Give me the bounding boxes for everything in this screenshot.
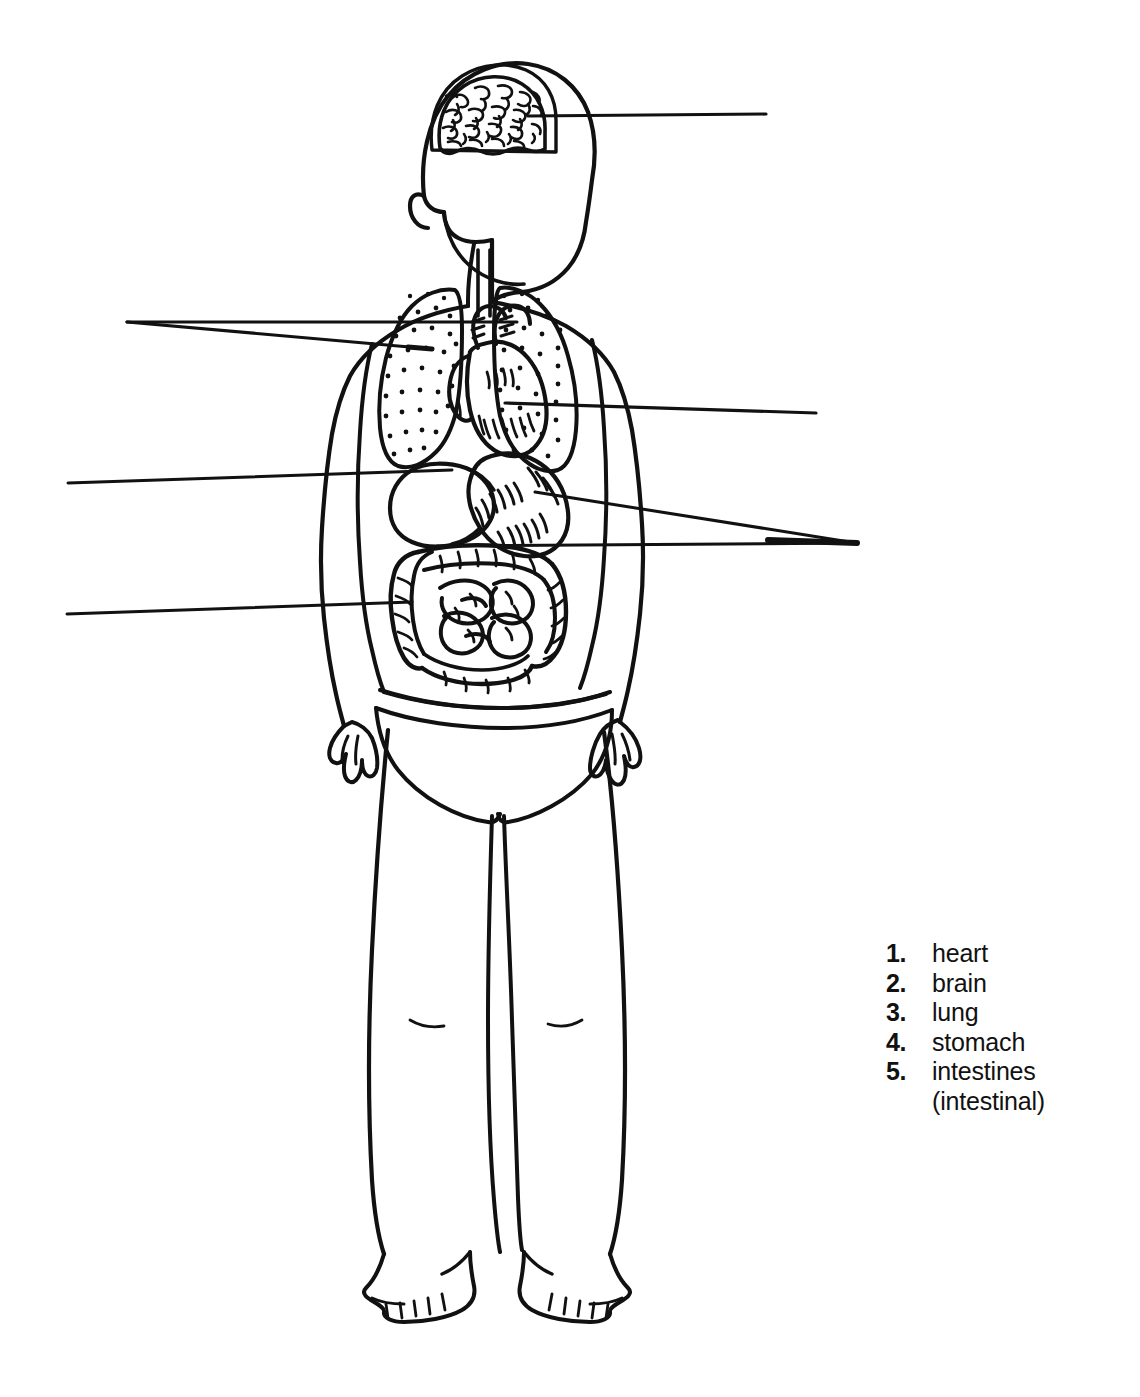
right-leader-tip [768, 540, 857, 543]
head-outline [410, 63, 595, 306]
legend-item-lung: 3. lung [886, 1000, 1126, 1026]
brain [431, 65, 556, 154]
legend-number: 1. [886, 941, 932, 967]
legend-item-stomach: 4. stomach [886, 1030, 1126, 1056]
legend-item-heart: 1. heart [886, 941, 1126, 967]
liver [390, 464, 494, 547]
legend-number: 3. [886, 1000, 932, 1026]
legend-label: heart [932, 941, 988, 967]
legend-item-brain: 2. brain [886, 971, 1126, 997]
human-body-diagram [0, 0, 1140, 1397]
legend-label: brain [932, 971, 987, 997]
legend-number: 4. [886, 1030, 932, 1056]
liver-leader [68, 470, 452, 483]
stomach-leader [535, 492, 856, 543]
brain-leader [528, 114, 766, 116]
legend-sublabel-intestines: (intestinal) [932, 1087, 1126, 1116]
intestines [391, 545, 566, 693]
legend-item-intestines: 5. intestines [886, 1059, 1126, 1085]
legend-number: 5. [886, 1059, 932, 1085]
legend-label: intestines [932, 1059, 1036, 1085]
legend-number: 2. [886, 971, 932, 997]
legend-label: stomach [932, 1030, 1025, 1056]
legend-label: lung [932, 1000, 978, 1026]
diagram-page: 1. heart 2. brain 3. lung 4. stomach 5. … [0, 0, 1140, 1397]
intestines-leader-left [67, 602, 412, 614]
organ-legend: 1. heart 2. brain 3. lung 4. stomach 5. … [886, 941, 1126, 1116]
lung-leader-tip [408, 347, 432, 349]
body-outline [321, 302, 643, 1322]
heart-leader [505, 403, 816, 413]
